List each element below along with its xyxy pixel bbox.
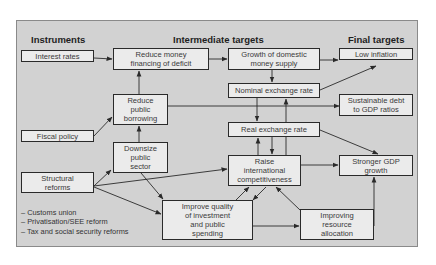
node-label: Sustainable debt to GDP ratios xyxy=(348,96,405,114)
instruments-header: Instruments xyxy=(31,34,85,45)
node-label: Stronger GDP growth xyxy=(352,157,400,175)
node-growth-money-supply: Growth of domestic money supply xyxy=(228,48,320,70)
node-nominal-exchange-rate: Nominal exchange rate xyxy=(228,83,320,98)
node-label: Reduce money financing of deficit xyxy=(131,50,192,68)
node-raise-competitiveness: Raise international competitiveness xyxy=(228,155,301,186)
intermediate-targets-header: Intermediate targets xyxy=(173,34,264,45)
node-label: Interest rates xyxy=(35,52,79,61)
node-sustainable-debt: Sustainable debt to GDP ratios xyxy=(339,94,413,116)
node-stronger-gdp-growth: Stronger GDP growth xyxy=(339,155,413,176)
node-improving-resource-allocation: Improving resource allocation xyxy=(300,209,374,240)
node-reduce-money-financing: Reduce money financing of deficit xyxy=(113,48,209,70)
node-label: Improve quality of investment and public… xyxy=(182,202,234,238)
node-downsize-public-sector: Downsize public sector xyxy=(113,142,168,173)
node-fiscal-policy: Fiscal policy xyxy=(21,130,94,142)
note-item: – Tax and social security reforms xyxy=(21,227,128,236)
node-label: Growth of domestic money supply xyxy=(241,50,306,68)
node-label: Nominal exchange rate xyxy=(235,86,313,95)
node-label: Real exchange rate xyxy=(241,125,307,134)
node-label: Raise international competitiveness xyxy=(237,157,291,184)
node-label: Improving resource allocation xyxy=(320,211,353,238)
node-label: Low inflation xyxy=(355,50,397,59)
final-targets-header: Final targets xyxy=(348,34,405,45)
node-low-inflation: Low inflation xyxy=(339,48,413,60)
structural-reforms-notes: – Customs union – Privatisation/SEE refo… xyxy=(21,208,128,236)
node-label: Reduce public borrowing xyxy=(124,96,157,123)
node-label: Structural reforms xyxy=(41,174,74,192)
note-item: – Customs union xyxy=(21,208,128,217)
note-item: – Privatisation/SEE reform xyxy=(21,217,128,226)
node-real-exchange-rate: Real exchange rate xyxy=(228,122,320,137)
node-reduce-public-borrowing: Reduce public borrowing xyxy=(113,94,168,125)
node-label: Fiscal policy xyxy=(37,132,78,141)
node-structural-reforms: Structural reforms xyxy=(21,172,94,193)
node-interest-rates: Interest rates xyxy=(21,50,94,62)
node-label: Downsize public sector xyxy=(124,144,157,171)
node-improve-quality-investment: Improve quality of investment and public… xyxy=(162,200,253,240)
